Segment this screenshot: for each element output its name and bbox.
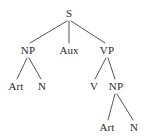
tree-edge-vp-to-np2 [108,58,115,79]
tree-edge-np2-to-art2 [108,94,115,120]
tree-edge-s-to-vp [71,21,105,43]
tree-node-v: V [90,81,98,92]
tree-node-np1: NP [21,45,35,56]
tree-edge-group [17,21,133,120]
tree-node-aux: Aux [59,45,78,56]
tree-edge-np1-to-art1 [17,58,27,79]
tree-node-np2: NP [109,81,123,92]
tree-node-n1: N [38,81,46,92]
tree-edge-np2-to-n2 [117,94,133,120]
tree-edges-layer [0,0,146,140]
tree-node-n2: N [130,122,138,133]
tree-edge-vp-to-v [95,58,106,79]
syntax-tree-figure: SNPAuxVPArtNVNPArtN [0,0,146,140]
tree-node-art1: Art [9,81,24,92]
tree-edge-np1-to-n1 [29,58,41,79]
tree-node-art2: Art [100,122,115,133]
tree-node-s: S [66,8,72,19]
tree-node-vp: VP [100,45,114,56]
tree-edge-s-to-np1 [30,21,67,43]
